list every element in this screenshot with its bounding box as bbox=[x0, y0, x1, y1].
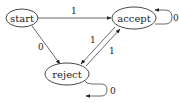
edge-label-start-accept: 1 bbox=[71, 6, 77, 16]
edge-reject-self-loop: 0 bbox=[84, 80, 116, 96]
edge-label-reject-loop: 0 bbox=[110, 86, 116, 96]
state-label-reject: reject bbox=[52, 69, 81, 80]
edge-accept-self-loop: 0 bbox=[155, 10, 179, 24]
edge-start-to-accept: 1 bbox=[38, 6, 111, 18]
state-label-start: start bbox=[10, 13, 34, 24]
edge-start-to-reject: 0 bbox=[32, 26, 60, 64]
state-label-accept: accept bbox=[117, 13, 151, 24]
state-reject: reject bbox=[45, 63, 89, 85]
state-start: start bbox=[6, 9, 38, 27]
edge-label-accept-reject: 1 bbox=[90, 35, 96, 45]
edge-label-start-reject: 0 bbox=[38, 42, 44, 52]
edge-label-reject-accept: 1 bbox=[109, 46, 115, 56]
state-accept: accept bbox=[112, 7, 156, 29]
state-diagram: 1 0 0 1 1 0 start accept reject bbox=[0, 0, 179, 103]
edge-label-accept-loop: 0 bbox=[173, 13, 179, 23]
